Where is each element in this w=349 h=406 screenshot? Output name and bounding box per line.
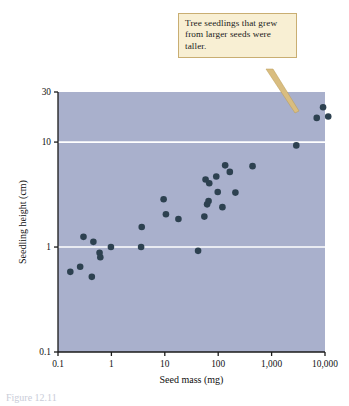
data-point [108,244,115,251]
y-tick-label: 10 [42,137,52,147]
data-point [163,211,170,218]
data-point [138,224,145,231]
data-point [67,269,74,276]
x-tick-label: 1 [109,359,114,369]
data-point [77,263,84,270]
data-point [219,204,226,211]
callout-annotation: Tree seedlings that grew from larger see… [178,13,297,58]
y-axis-label: Seedling height (cm) [17,180,29,264]
y-tick-label: 30 [42,87,52,97]
data-point [227,169,234,176]
y-tick-label: 0.1 [39,347,51,357]
data-point [175,216,182,223]
data-point [222,162,229,169]
data-point [89,274,96,281]
x-tick-label: 10 [160,359,170,369]
x-axis-label: Seed mass (mg) [160,374,224,386]
data-point [293,142,300,149]
figure-container: 0.11101001,00010,000 0.111030 Seed mass … [0,0,349,406]
data-point [97,254,104,261]
data-point [138,244,145,251]
x-tick-label: 10,000 [312,359,338,369]
data-point [213,173,220,180]
callout-text: Tree seedlings that grew from larger see… [185,18,277,51]
data-point [195,248,202,255]
x-axis-tick-labels: 0.11101001,00010,000 [52,359,338,369]
y-tick-label: 1 [46,242,51,252]
data-point [325,113,332,120]
data-point [80,234,87,241]
data-point [232,189,239,196]
figure-caption: Figure 12.11 [6,392,57,403]
x-tick-label: 1,000 [261,359,282,369]
x-tick-label: 0.1 [52,359,64,369]
data-point [205,198,212,205]
plot-area-background [58,92,325,352]
data-point [249,163,256,170]
y-axis-tick-labels: 0.111030 [39,87,51,357]
scatter-plot: 0.11101001,00010,000 0.111030 Seed mass … [0,0,349,406]
data-point [320,104,327,111]
data-point [313,115,320,122]
data-point [201,213,208,220]
x-tick-label: 100 [211,359,225,369]
data-point [206,180,213,187]
data-point [214,189,221,196]
data-point [90,239,97,246]
data-point [160,196,167,203]
